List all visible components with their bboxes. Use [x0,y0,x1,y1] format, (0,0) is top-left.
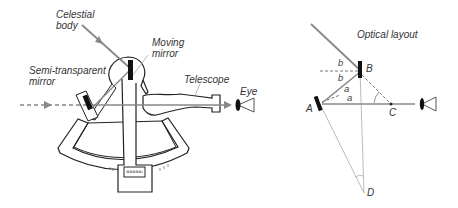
label-celestial-body: Celestial [56,9,95,20]
angle-label-a2: a [347,92,352,103]
label-moving-mirror: Moving [152,37,185,48]
label-point-A: A [305,103,313,114]
incoming-ray [311,24,360,70]
eye-icon [236,98,255,112]
label-point-C: C [389,107,397,118]
line-B-C [362,75,391,104]
sextant-diagram: Celestial body Moving mirror Semi-transp… [0,0,458,208]
point-C [390,103,393,106]
label-moving-mirror-2: mirror [152,48,179,59]
label-point-B: B [366,63,373,74]
angle-arc-D [355,175,363,177]
label-semi-transparent-mirror-2: mirror [29,76,56,87]
eye-icon [420,97,436,111]
label-semi-transparent-mirror: Semi-transparent [29,65,107,76]
angle-label-b2: b [338,72,343,83]
telescope-leader [195,84,200,95]
optical-layout-title: Optical layout [357,29,419,40]
label-point-D: D [367,187,374,198]
mirror-B [358,61,362,78]
celestial-ray [82,25,131,69]
label-telescope: Telescope [184,74,230,85]
angle-label-b1: b [338,57,343,68]
moving-mirror [128,60,133,80]
angle-arc-C [374,92,379,103]
mirror-A [314,96,323,111]
line-B-D [360,70,364,193]
label-eye: Eye [240,86,258,97]
label-celestial-body-2: body [56,20,79,31]
optical-layout: Optical layout B A C D b b a a [305,24,436,198]
sextant-illustration: Celestial body Moving mirror Semi-transp… [20,9,258,192]
line-A-D [320,104,364,193]
